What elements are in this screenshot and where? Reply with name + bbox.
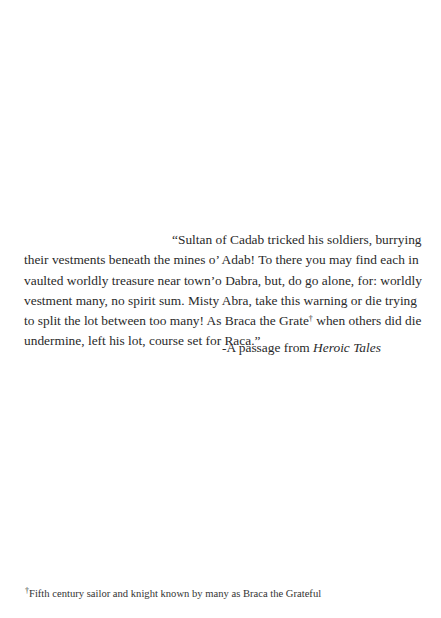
attribution-title: Heroic Tales	[313, 340, 381, 355]
footnote-text: Fifth century sailor and knight known by…	[29, 588, 321, 599]
footnote: †Fifth century sailor and knight known b…	[25, 588, 321, 599]
passage-line: their vestments beneath the mines o’ Ada…	[24, 250, 418, 270]
passage-line: vestment many, no spirit sum. Misty Abra…	[24, 291, 418, 311]
passage-line-part: to split the lot between too many! As Br…	[24, 313, 309, 328]
passage-line: to split the lot between too many! As Br…	[24, 311, 418, 331]
passage-line-part: when others did die	[313, 313, 422, 328]
passage-line: “Sultan of Cadab tricked his soldiers, b…	[24, 230, 418, 250]
attribution: -A passage from Heroic Tales	[222, 340, 381, 356]
attribution-prefix: -A passage from	[222, 340, 313, 355]
quoted-passage: “Sultan of Cadab tricked his soldiers, b…	[24, 230, 418, 352]
passage-line: vaulted worldly treasure near town’o Dab…	[24, 271, 418, 291]
